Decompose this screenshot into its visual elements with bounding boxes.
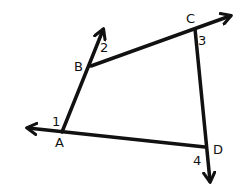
angle-label-1: 1 [52, 114, 60, 129]
ray-ab [62, 30, 103, 132]
angle-label-2: 2 [100, 40, 108, 55]
vertex-label-c: C [186, 11, 195, 26]
vertex-label-b: B [74, 59, 83, 74]
ray-bc [91, 16, 230, 66]
vertex-label-d: D [213, 142, 223, 157]
angle-label-4: 4 [193, 153, 201, 168]
quadrilateral-diagram: A B C D 1 2 3 4 [0, 0, 239, 192]
vertex-label-a: A [55, 135, 64, 150]
angle-label-3: 3 [198, 33, 206, 48]
